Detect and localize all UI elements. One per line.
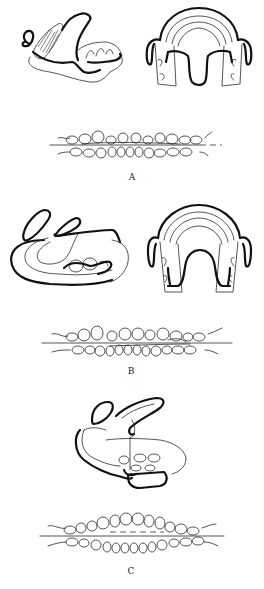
panel-b-lateral-view (11, 210, 128, 285)
dental-appliance-figure: A B C (0, 0, 264, 589)
panel-c-dental-arch (40, 513, 224, 553)
panel-a-lateral-view (23, 13, 123, 82)
panel-a-dental-arch (50, 131, 222, 158)
panel-label-c: C (116, 566, 146, 576)
figure-drawings (0, 0, 264, 589)
panel-label-a: A (117, 172, 147, 182)
panel-b-occlusal-view (148, 205, 251, 292)
panel-b-dental-arch (42, 326, 232, 356)
panel-a-occlusal-view (147, 8, 252, 86)
panel-c-lateral-view (76, 398, 186, 488)
panel-label-b: B (116, 366, 146, 376)
